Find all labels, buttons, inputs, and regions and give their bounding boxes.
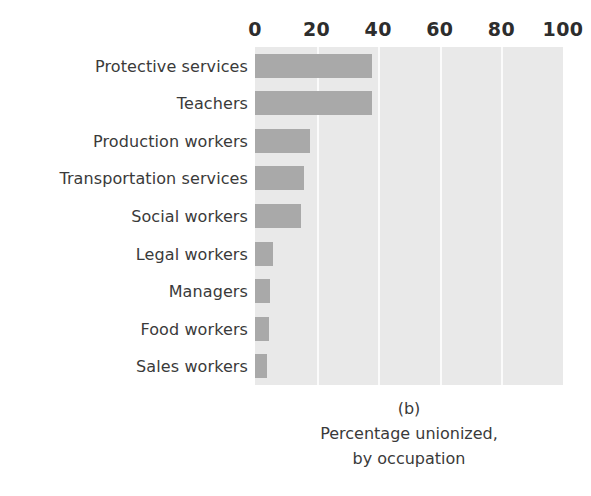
y-category-label: Sales workers xyxy=(0,357,248,376)
figure-caption: (b) Percentage unionized, by occupation xyxy=(255,396,563,471)
bar-row xyxy=(255,204,563,228)
x-tick-label-100: 100 xyxy=(543,18,584,40)
plot-area xyxy=(255,47,563,385)
y-axis-category-labels: Protective servicesTeachersProduction wo… xyxy=(0,47,248,385)
caption-line-2: by occupation xyxy=(255,446,563,471)
panel-label: (b) xyxy=(255,396,563,421)
y-category-label: Social workers xyxy=(0,207,248,226)
bar-row xyxy=(255,354,563,378)
x-tick-label-0: 0 xyxy=(248,18,262,40)
bar-row xyxy=(255,91,563,115)
bar xyxy=(255,317,269,341)
bar-chart-figure: 020406080100 Protective servicesTeachers… xyxy=(0,0,591,496)
bar xyxy=(255,242,273,266)
bar xyxy=(255,204,301,228)
bar-row xyxy=(255,279,563,303)
x-tick-label-80: 80 xyxy=(488,18,515,40)
x-tick-label-60: 60 xyxy=(426,18,453,40)
y-category-label: Managers xyxy=(0,282,248,301)
caption-line-1: Percentage unionized, xyxy=(255,421,563,446)
y-category-label: Legal workers xyxy=(0,244,248,263)
y-category-label: Transportation services xyxy=(0,169,248,188)
y-category-label: Teachers xyxy=(0,94,248,113)
y-category-label: Protective services xyxy=(0,56,248,75)
x-tick-label-40: 40 xyxy=(365,18,392,40)
bar xyxy=(255,166,304,190)
bar xyxy=(255,279,270,303)
bar xyxy=(255,54,372,78)
x-tick-label-20: 20 xyxy=(303,18,330,40)
bar xyxy=(255,354,267,378)
bar xyxy=(255,91,372,115)
bar-row xyxy=(255,166,563,190)
bar-row xyxy=(255,54,563,78)
y-category-label: Production workers xyxy=(0,131,248,150)
bar xyxy=(255,129,310,153)
bar-row xyxy=(255,242,563,266)
bar-row xyxy=(255,317,563,341)
x-axis-tick-labels: 020406080100 xyxy=(255,18,563,44)
y-category-label: Food workers xyxy=(0,319,248,338)
bar-row xyxy=(255,129,563,153)
